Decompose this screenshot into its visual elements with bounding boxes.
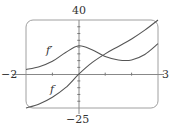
y-max-label: 40	[72, 5, 86, 16]
f-prime-label: f′	[46, 45, 53, 56]
chart-plot	[0, 0, 176, 129]
y-min-label: −25	[66, 114, 89, 125]
x-max-label: 3	[162, 69, 169, 80]
x-min-label: −2	[1, 69, 17, 80]
axis-ticks	[52, 27, 131, 101]
f-label: f	[50, 84, 54, 95]
